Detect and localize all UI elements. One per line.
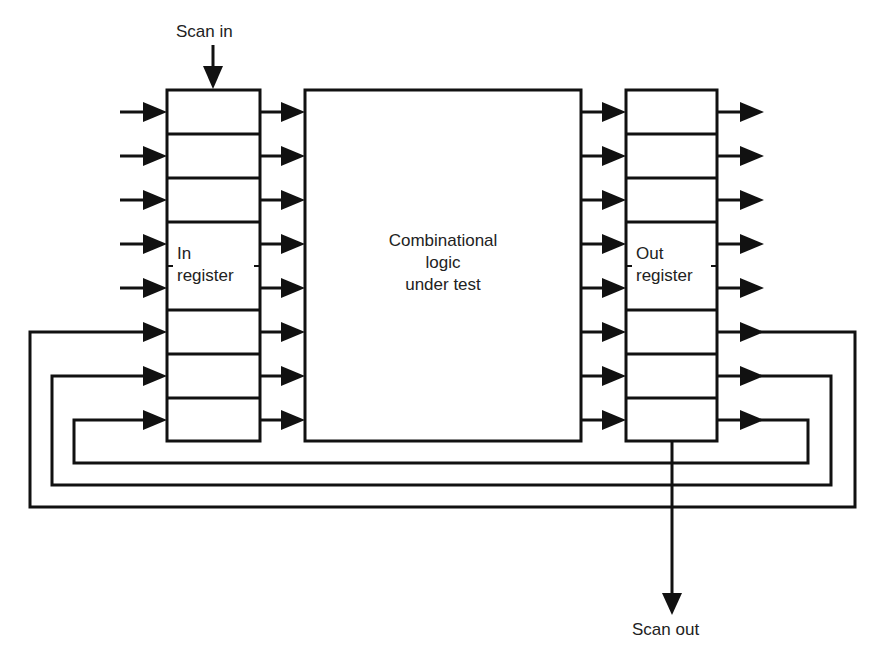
scan-path-diagram (0, 0, 885, 665)
feedback-loop-2 (52, 376, 831, 485)
logic-label-line1: Combinational (305, 231, 581, 251)
in-register-label-line2: register (177, 266, 234, 286)
scan-in-arrow (203, 45, 223, 89)
logic-label-line2: logic (305, 253, 581, 273)
out-register-label-line1: Out (636, 244, 663, 264)
scan-out-label: Scan out (632, 620, 699, 640)
out-register-label-line2: register (636, 266, 693, 286)
scan-out-arrow (662, 441, 682, 615)
in-register-label-line1: In (177, 244, 191, 264)
scan-in-label: Scan in (176, 22, 233, 42)
logic-label-line3: under test (305, 275, 581, 295)
